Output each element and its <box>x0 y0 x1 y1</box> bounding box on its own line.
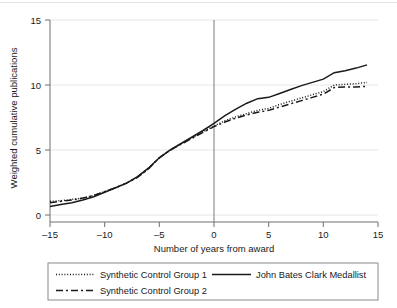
series-line-synthetic-control-group-2 <box>50 86 367 202</box>
data-series-group <box>50 65 367 207</box>
x-tick-label-0: 0 <box>211 229 216 240</box>
y-tick-label-5: 5 <box>36 145 41 156</box>
y-axis-label: Weighted cumulative publications <box>8 47 19 188</box>
x-tick-label--15: –15 <box>42 229 58 240</box>
x-tick-label-5: 5 <box>266 229 271 240</box>
x-tick-label--10: –10 <box>97 229 113 240</box>
y-tick-label-0: 0 <box>36 210 41 221</box>
y-axis: 15 10 5 0 <box>30 15 50 223</box>
x-axis: –15 –10 –5 0 5 10 15 <box>42 222 383 240</box>
x-tick-label-15: 15 <box>373 229 384 240</box>
y-tick-label-10: 10 <box>30 80 41 91</box>
legend: Synthetic Control Group 1 John Bates Cla… <box>48 263 378 300</box>
legend-label-synthetic-control-group-2: Synthetic Control Group 2 <box>100 286 207 296</box>
x-tick-label--5: –5 <box>154 229 165 240</box>
x-tick-label-10: 10 <box>318 229 329 240</box>
chart-figure: 15 10 5 0 Weighted cumulative publicatio… <box>0 0 397 308</box>
series-line-synthetic-control-group-1 <box>50 82 367 201</box>
y-tick-label-15: 15 <box>30 15 41 26</box>
legend-label-john-bates-clark-medallist: John Bates Clark Medallist <box>256 270 366 280</box>
x-axis-label: Number of years from award <box>154 243 274 254</box>
legend-box <box>48 263 378 300</box>
legend-label-synthetic-control-group-1: Synthetic Control Group 1 <box>100 270 207 280</box>
series-line-john-bates-clark-medallist <box>50 65 367 207</box>
